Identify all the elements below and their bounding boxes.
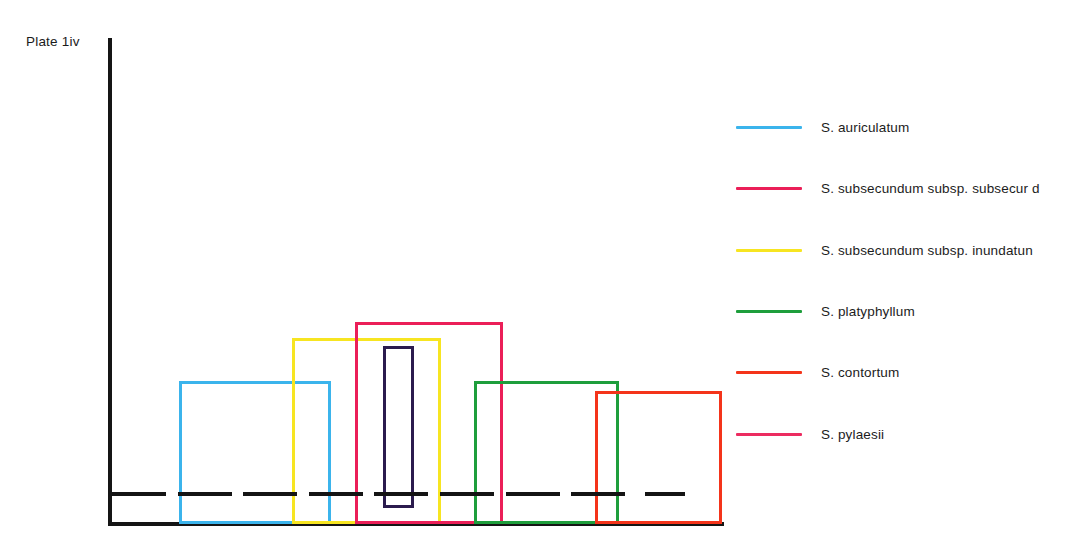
legend-swatch-subsecundum-subsecundum	[736, 187, 802, 190]
median-dash-4	[309, 492, 363, 496]
median-dash-9	[645, 492, 685, 496]
legend-swatch-auriculatum	[736, 126, 802, 129]
legend-swatch-contortum	[736, 371, 802, 374]
legend-swatch-subsecundum-inundatum	[736, 249, 802, 252]
legend-item-label: S. subsecundum subsp. inundatun	[821, 243, 1033, 258]
median-dash-3	[243, 492, 297, 496]
legend-item-4[interactable]: S. platyphyllum	[736, 300, 915, 322]
legend-swatch-platyphyllum	[736, 310, 802, 313]
median-dash-5	[374, 492, 428, 496]
median-dash-8	[571, 492, 625, 496]
legend-item-label: S. subsecundum subsp. subsecur d	[821, 181, 1040, 196]
legend: S. auriculatumS. subsecundum subsp. subs…	[736, 104, 1069, 444]
box-s-contortum	[595, 391, 722, 524]
median-dash-2	[178, 492, 232, 496]
legend-swatch-pylaesii	[736, 433, 802, 436]
legend-item-label: S. platyphyllum	[821, 304, 915, 319]
legend-item-6[interactable]: S. pylaesii	[736, 423, 884, 445]
box-s-pylaesii	[383, 346, 414, 508]
median-dash-1	[112, 492, 166, 496]
legend-item-3[interactable]: S. subsecundum subsp. inundatun	[736, 239, 1033, 261]
median-dash-7	[506, 492, 560, 496]
legend-item-1[interactable]: S. auriculatum	[736, 116, 909, 138]
legend-item-5[interactable]: S. contortum	[736, 361, 899, 383]
legend-item-label: S. auriculatum	[821, 120, 909, 135]
figure-canvas: Plate 1iv S. auriculatumS. subsecundum s…	[0, 0, 1069, 556]
legend-item-2[interactable]: S. subsecundum subsp. subsecur d	[736, 177, 1040, 199]
legend-item-label: S. contortum	[821, 365, 899, 380]
median-dash-6	[440, 492, 494, 496]
legend-item-label: S. pylaesii	[821, 427, 884, 442]
